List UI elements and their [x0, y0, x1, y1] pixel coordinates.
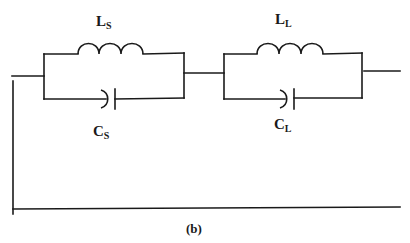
figure-caption: (b) — [186, 221, 202, 236]
inductor-ll-icon — [257, 44, 323, 55]
circuit-diagram: LS LL CS CL (b) — [0, 0, 410, 243]
source-inductor-lead-right — [143, 53, 184, 54]
label-ls: LS — [96, 13, 112, 31]
label-cl: CL — [274, 116, 292, 134]
load-inductor-lead-right — [323, 53, 362, 54]
inductor-ls-icon — [78, 44, 143, 55]
source-tank — [44, 44, 184, 110]
source-cap-lead-right — [115, 98, 184, 99]
label-cs: CS — [93, 123, 110, 141]
label-ll: LL — [275, 11, 292, 29]
load-tank — [224, 44, 362, 110]
bottom-ground-wire — [13, 207, 400, 209]
